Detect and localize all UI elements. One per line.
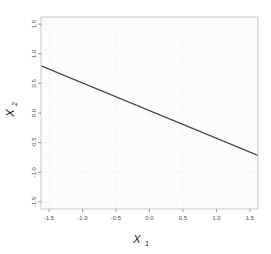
y-tick-label: -1.5 bbox=[31, 196, 37, 207]
y-tick-label-group: -1.0 bbox=[31, 166, 37, 177]
x-tick-label: 0.5 bbox=[179, 215, 188, 221]
y-tick-label-group: 1.5 bbox=[31, 19, 37, 28]
x-tick-label: 1.0 bbox=[212, 215, 221, 221]
x-axis-title-main: X bbox=[132, 233, 141, 245]
y-tick-label-group: -1.5 bbox=[31, 196, 37, 207]
y-tick-label: 0.5 bbox=[31, 79, 37, 88]
y-axis-title-main: X bbox=[4, 109, 16, 118]
x-tick-label: -0.5 bbox=[111, 215, 122, 221]
x-tick-label: 0.0 bbox=[145, 215, 154, 221]
y-tick-label: 1.0 bbox=[31, 49, 37, 58]
chart-figure: -1.5-1.0-0.50.00.51.01.5 -1.5-1.0-0.50.0… bbox=[0, 0, 271, 254]
y-tick-label: -1.0 bbox=[31, 166, 37, 177]
y-tick-label: 1.5 bbox=[31, 19, 37, 28]
y-tick-label: -0.5 bbox=[31, 137, 37, 148]
y-axis-title-subscript: 2 bbox=[11, 102, 18, 107]
x-tick-label: 1.5 bbox=[246, 215, 255, 221]
x-tick-label: -1.5 bbox=[44, 215, 55, 221]
y-tick-label: 0.0 bbox=[31, 108, 37, 117]
y-tick-label-group: 1.0 bbox=[31, 49, 37, 58]
y-tick-label-group: 0.5 bbox=[31, 79, 37, 88]
x-axis-title-subscript: 1 bbox=[145, 240, 149, 247]
y-tick-label-group: 0.0 bbox=[31, 108, 37, 117]
x-tick-label: -1.0 bbox=[77, 215, 88, 221]
plot-canvas: -1.5-1.0-0.50.00.51.01.5 -1.5-1.0-0.50.0… bbox=[0, 0, 271, 254]
y-tick-label-group: -0.5 bbox=[31, 137, 37, 148]
